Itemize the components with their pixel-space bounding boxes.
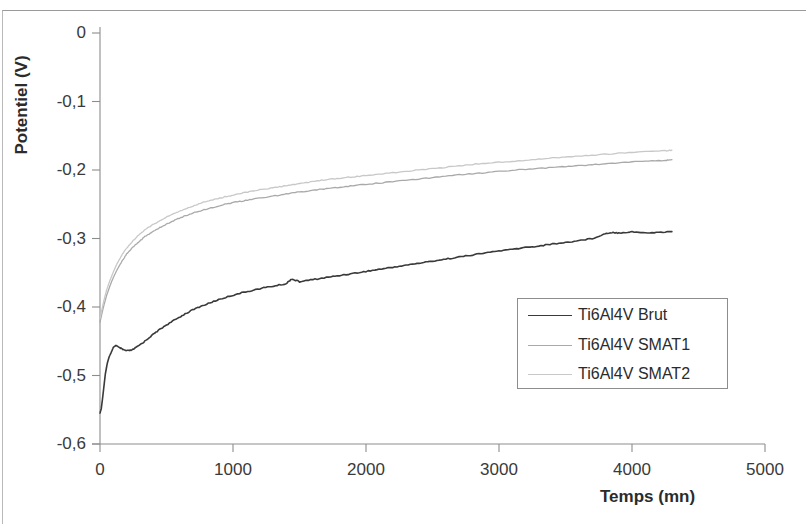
x-axis-tick-label: 4000 [613, 460, 651, 480]
legend-label-smat2: Ti6Al4V SMAT2 [578, 365, 690, 383]
x-axis-tick-label: 0 [95, 460, 104, 480]
x-axis-title: Temps (mn) [600, 487, 695, 507]
y-axis-title: Potentiel (V) [12, 25, 32, 185]
legend-item-smat1: Ti6Al4V SMAT1 [518, 330, 727, 360]
legend-line-sample-brut [528, 308, 572, 322]
legend-line-sample-smat1 [528, 338, 572, 352]
y-axis-tick-label: -0,4 [10, 297, 86, 317]
chart-plot-area [0, 0, 810, 526]
chart-legend: Ti6Al4V Brut Ti6Al4V SMAT1 Ti6Al4V SMAT2 [517, 298, 728, 389]
legend-item-brut: Ti6Al4V Brut [518, 300, 727, 330]
x-axis-tick-label: 2000 [347, 460, 385, 480]
legend-line-sample-smat2 [528, 367, 572, 381]
chart-figure: 0-0,1-0,2-0,3-0,4-0,5-0,6 01000200030004… [0, 0, 810, 526]
legend-label-brut: Ti6Al4V Brut [578, 306, 667, 324]
x-axis-tick-label: 5000 [746, 460, 784, 480]
y-axis-tick-label: -0,5 [10, 366, 86, 386]
legend-label-smat1: Ti6Al4V SMAT1 [578, 336, 690, 354]
series-line-ti6al4v-smat2 [100, 150, 672, 319]
y-axis-tick-label: -0,3 [10, 229, 86, 249]
x-axis-tick-label: 1000 [214, 460, 252, 480]
legend-item-smat2: Ti6Al4V SMAT2 [518, 359, 727, 389]
x-axis-tick-label: 3000 [480, 460, 518, 480]
y-axis-tick-label: -0,6 [10, 434, 86, 454]
